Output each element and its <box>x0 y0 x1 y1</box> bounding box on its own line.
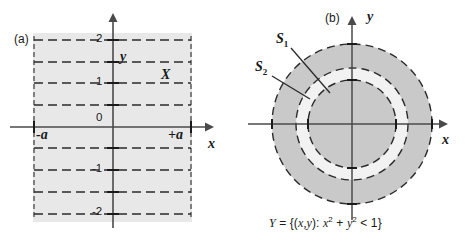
x-axis-label: x <box>208 137 215 151</box>
region-label-s1-sub: 1 <box>284 39 289 49</box>
region-label-s2: S2 <box>255 60 267 77</box>
y-tick-label-neg2: -2 <box>92 206 102 218</box>
panel-b-label: (b) <box>325 12 340 24</box>
panel-a-graphic <box>0 0 234 242</box>
x-left-boundary-label: -a <box>36 128 48 142</box>
panel-a-label: (a) <box>14 33 29 45</box>
y-axis-label: y <box>367 10 373 24</box>
y-tick-label-0: 0 <box>96 112 102 124</box>
formula-relation: < 1 <box>360 216 377 230</box>
x-axis-label: x <box>442 133 449 147</box>
y-axis-label: y <box>120 50 126 64</box>
formula-open: {( <box>290 216 298 230</box>
set-x-label: X <box>161 68 170 82</box>
set-y-formula: Y = {(x,y): x2 + y2 < 1} <box>269 216 382 229</box>
formula-lhs: Y <box>269 216 276 230</box>
figure-container: (a) 2 1 0 -1 -2 y x X -a +a <box>0 0 468 242</box>
y-axis-arrowhead <box>109 13 118 22</box>
y-tick-label-1: 1 <box>96 76 102 88</box>
x-axis-arrowhead <box>439 120 448 129</box>
y-axis-arrowhead <box>348 16 357 25</box>
x-axis-arrowhead <box>205 123 214 132</box>
region-label-s2-base: S <box>255 59 263 74</box>
formula-close: } <box>378 216 382 230</box>
panel-b: (b) y x S1 S2 Y = {(x,y): x2 + y2 < 1} <box>234 0 468 242</box>
region-label-s1: S1 <box>276 32 288 49</box>
panel-b-graphic <box>234 0 468 242</box>
x-right-boundary-label: +a <box>168 128 183 142</box>
y-tick-label-2: 2 <box>96 33 102 45</box>
formula-plus: + <box>333 216 347 230</box>
formula-vars: x,y <box>298 216 312 230</box>
formula-eq: = <box>276 216 290 230</box>
panel-a: (a) 2 1 0 -1 -2 y x X -a +a <box>0 0 234 242</box>
region-label-s2-sub: 2 <box>263 67 268 77</box>
y-tick-label-neg1: -1 <box>92 163 102 175</box>
region-label-s1-base: S <box>276 31 284 46</box>
